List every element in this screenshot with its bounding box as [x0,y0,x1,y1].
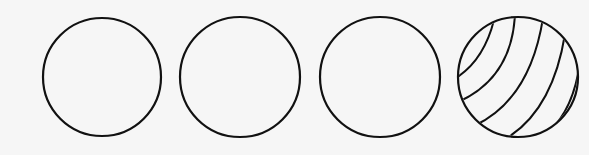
ball-outline [458,17,578,137]
ball-stripes [456,14,580,142]
stripe-4 [500,34,565,142]
plain-circle-1 [43,18,161,136]
plain-circle-2 [180,17,300,137]
stripe-3 [474,18,543,126]
figure-canvas [0,0,589,155]
striped-ball [456,14,580,142]
plain-circle-3 [320,17,440,137]
circles-diagram [0,0,589,155]
stripe-1 [456,20,494,78]
